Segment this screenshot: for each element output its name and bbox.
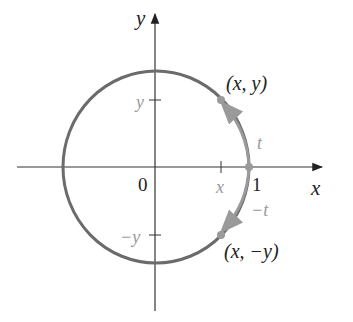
point-upper-label: (x, y)	[226, 72, 267, 95]
arc-t-label: t	[257, 133, 263, 153]
x-axis-label: x	[310, 176, 321, 200]
y-tick-label: y	[134, 92, 144, 112]
point-upper	[217, 96, 225, 104]
neg-y-tick-label: −y	[120, 227, 140, 247]
x-tick-label: x	[215, 177, 224, 197]
origin-label: 0	[138, 174, 148, 195]
point-lower-label: (x, −y)	[224, 240, 279, 263]
one-label: 1	[252, 174, 262, 195]
point-one	[245, 163, 253, 171]
arc-neg-t-label: −t	[251, 200, 269, 220]
point-lower	[217, 231, 225, 239]
unit-circle-diagram: y x 0 1 x y −y (x, y) (x, −y) t −t	[0, 0, 353, 322]
y-axis-label: y	[134, 6, 146, 30]
